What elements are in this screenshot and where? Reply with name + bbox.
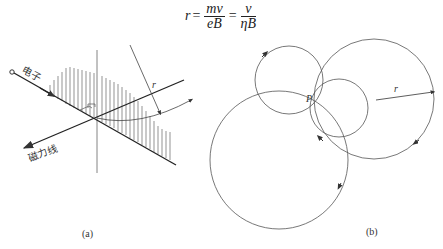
- diagram-canvas: r 电子 磁力线 (a) r P (b): [0, 0, 443, 249]
- radius-arrow-b: [376, 92, 433, 100]
- caption-a: (a): [82, 228, 93, 240]
- point-p-label: P: [305, 93, 312, 104]
- panel-a: r 电子 磁力线 (a): [10, 45, 191, 240]
- circle-top-left: [255, 46, 323, 114]
- circle-large-bottom: [210, 91, 348, 229]
- radius-label-a: r: [152, 79, 156, 90]
- circle-small-middle: [310, 79, 368, 137]
- panel-b: [210, 39, 434, 229]
- electron-label: 电子: [20, 63, 43, 83]
- radius-label-b: r: [394, 83, 398, 94]
- caption-b: (b): [366, 226, 378, 238]
- electron-source-icon: [10, 70, 14, 74]
- circle-large-right: [314, 39, 434, 159]
